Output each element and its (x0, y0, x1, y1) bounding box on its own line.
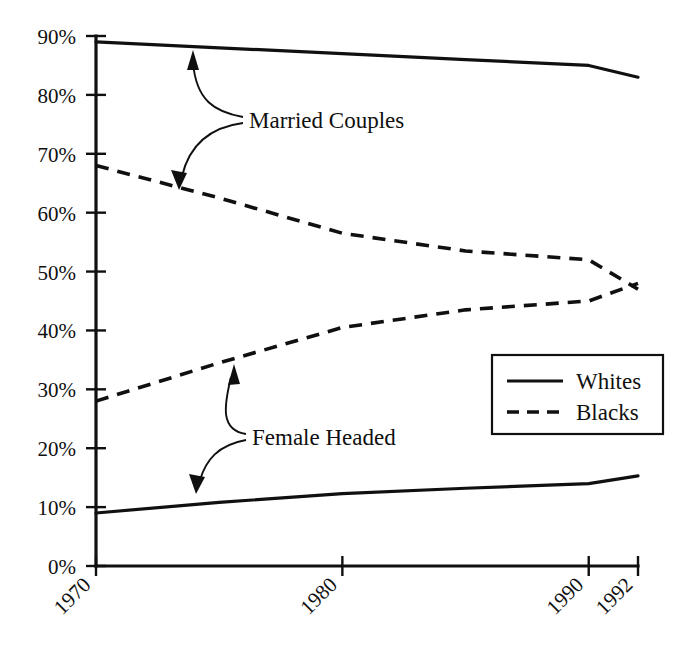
line-chart: 0%10%20%30%40%50%60%70%80%90% 1970198019… (0, 0, 690, 655)
y-tick-label: 0% (48, 555, 76, 579)
annotation-married-couples: Married Couples (171, 50, 404, 190)
annotation-label-female-headed: Female Headed (252, 425, 396, 450)
chart-page: 0%10%20%30%40%50%60%70%80%90% 1970198019… (0, 0, 690, 655)
y-tick-label: 40% (38, 319, 77, 343)
annotation-female-headed: Female Headed (189, 364, 396, 494)
annotation-arrow-to-whites-female-headed (200, 440, 246, 480)
series-line-whites-married-couples (96, 42, 638, 77)
chart-legend: Whites Blacks (492, 355, 663, 434)
annotation-arrow-to-whites-married (193, 62, 243, 117)
y-tick-label: 30% (38, 378, 77, 402)
annotation-label-married-couples: Married Couples (249, 108, 404, 133)
y-tick-label: 90% (38, 25, 77, 49)
y-axis-tick-labels: 0%10%20%30%40%50%60%70%80%90% (38, 25, 77, 579)
y-tick-label: 60% (38, 202, 77, 226)
annotation-arrow-to-blacks-married (182, 123, 243, 176)
series-line-whites-female-headed (96, 476, 638, 513)
y-tick-label: 50% (38, 261, 77, 285)
arrowhead-up-female-headed (228, 364, 240, 385)
y-tick-label: 20% (38, 437, 77, 461)
x-tick-label: 1980 (295, 573, 342, 620)
legend-label-blacks: Blacks (576, 400, 639, 425)
arrowhead-up-married (187, 50, 199, 70)
y-tick-label: 10% (38, 496, 77, 520)
x-tick-label: 1990 (542, 573, 589, 620)
y-tick-label: 70% (38, 143, 77, 167)
x-tick-label: 1970 (49, 573, 96, 620)
annotation-arrow-to-blacks-female-headed (226, 377, 246, 434)
x-axis-tick-labels: 1970198019901992 (49, 573, 638, 620)
arrowhead-down-female-headed (189, 474, 205, 494)
legend-label-whites: Whites (576, 369, 641, 394)
x-tick-label: 1992 (591, 573, 638, 620)
y-tick-label: 80% (38, 84, 77, 108)
